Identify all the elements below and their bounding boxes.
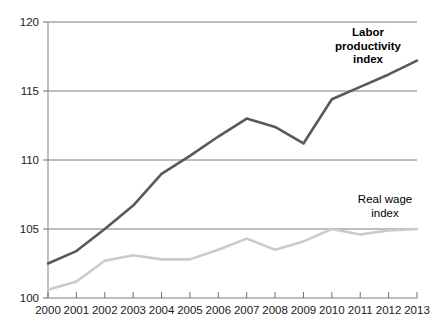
real-wage-label: Real wageindex bbox=[358, 193, 412, 219]
x-axis-tick-labels: 2000200120022003200420052006200720082009… bbox=[35, 304, 430, 316]
series-line-real-wage-index bbox=[48, 229, 417, 290]
x-axis-label-2010: 2010 bbox=[319, 304, 345, 316]
x-axis-label-2005: 2005 bbox=[177, 304, 203, 316]
x-axis-label-2006: 2006 bbox=[206, 304, 232, 316]
y-axis-label-110: 110 bbox=[21, 154, 39, 166]
chart-canvas: 100105110115120 200020012002200320042005… bbox=[0, 0, 434, 334]
x-axis-label-2000: 2000 bbox=[35, 304, 61, 316]
x-axis-label-2001: 2001 bbox=[64, 304, 90, 316]
y-axis-label-100: 100 bbox=[20, 292, 39, 304]
x-axis-label-2008: 2008 bbox=[262, 304, 288, 316]
x-axis-label-2012: 2012 bbox=[376, 304, 402, 316]
y-axis-label-120: 120 bbox=[20, 16, 39, 28]
x-axis-label-2003: 2003 bbox=[120, 304, 146, 316]
x-axis-label-2004: 2004 bbox=[149, 304, 175, 316]
line-chart-figure: 100105110115120 200020012002200320042005… bbox=[0, 0, 434, 334]
y-axis-label-105: 105 bbox=[20, 223, 39, 235]
y-axis-tick-labels: 100105110115120 bbox=[20, 16, 39, 304]
x-axis-label-2007: 2007 bbox=[234, 304, 260, 316]
data-series-group bbox=[48, 61, 417, 290]
y-axis-label-115: 115 bbox=[21, 85, 39, 97]
labor-productivity-label: Laborproductivityindex bbox=[335, 26, 401, 65]
x-axis-label-2002: 2002 bbox=[92, 304, 118, 316]
x-axis-label-2009: 2009 bbox=[291, 304, 317, 316]
x-axis-label-2011: 2011 bbox=[348, 304, 373, 316]
x-axis-label-2013: 2013 bbox=[404, 304, 430, 316]
series-annotations-group: LaborproductivityindexReal wageindex bbox=[335, 26, 412, 219]
